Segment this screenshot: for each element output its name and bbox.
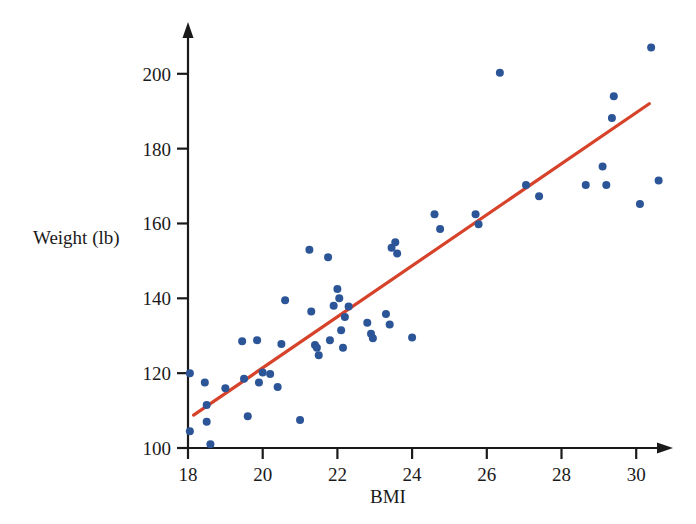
data-point (475, 220, 483, 228)
x-tick-label: 20 (253, 464, 272, 485)
y-axis-arrowhead (183, 22, 194, 38)
data-point (599, 163, 607, 171)
data-point (330, 302, 338, 310)
data-point (345, 303, 353, 311)
data-point (324, 253, 332, 261)
data-point (201, 379, 209, 387)
data-point (382, 310, 390, 318)
y-tick-label: 160 (143, 213, 172, 234)
x-tick-label: 30 (627, 464, 646, 485)
data-point (522, 181, 530, 189)
data-point (335, 294, 343, 302)
data-point (203, 401, 211, 409)
data-point (266, 370, 274, 378)
data-point (305, 246, 313, 254)
data-point (281, 296, 289, 304)
data-point (636, 200, 644, 208)
data-point (436, 225, 444, 233)
data-point (255, 379, 263, 387)
data-point (337, 326, 345, 334)
y-axis-title: Weight (lb) (33, 227, 120, 249)
y-axis-ticks: 100120140160180200 (143, 64, 189, 459)
y-tick-label: 180 (143, 139, 172, 160)
data-point (326, 336, 334, 344)
data-point (535, 192, 543, 200)
x-tick-label: 18 (179, 464, 198, 485)
x-tick-label: 22 (328, 464, 347, 485)
data-point (408, 334, 416, 342)
data-point (240, 375, 248, 383)
data-point (333, 285, 341, 293)
x-tick-label: 28 (552, 464, 571, 485)
data-point (253, 336, 261, 344)
data-point (369, 334, 377, 342)
data-point (274, 383, 282, 391)
regression-line-group (194, 104, 650, 415)
plot-canvas: 100120140160180200 18202224262830 Weight… (0, 0, 696, 524)
data-point (472, 210, 480, 218)
data-point (244, 412, 252, 420)
y-tick-label: 200 (143, 64, 172, 85)
regression-line (194, 104, 650, 415)
data-point (186, 369, 194, 377)
x-axis (188, 443, 673, 454)
y-tick-label: 120 (143, 363, 172, 384)
data-point (259, 368, 267, 376)
x-tick-label: 26 (477, 464, 496, 485)
data-point (496, 69, 504, 77)
data-point (602, 181, 610, 189)
data-point (610, 92, 618, 100)
y-axis (183, 22, 194, 448)
data-point (203, 418, 211, 426)
data-point (391, 238, 399, 246)
data-point (277, 340, 285, 348)
data-point (582, 181, 590, 189)
y-tick-label: 100 (143, 438, 172, 459)
data-point (393, 249, 401, 257)
data-point (315, 351, 323, 359)
data-point (655, 176, 663, 184)
data-point (221, 384, 229, 392)
data-point (238, 337, 246, 345)
data-point (386, 321, 394, 329)
data-point (363, 319, 371, 327)
x-axis-title: BMI (370, 486, 406, 507)
data-point (431, 210, 439, 218)
data-point (206, 440, 214, 448)
data-point (296, 416, 304, 424)
x-axis-arrowhead (657, 443, 673, 454)
data-point (307, 307, 315, 315)
data-point (313, 344, 321, 352)
x-tick-label: 24 (403, 464, 423, 485)
data-point (608, 114, 616, 122)
data-point (647, 44, 655, 52)
data-point (341, 313, 349, 321)
data-point (186, 427, 194, 435)
x-axis-ticks: 18202224262830 (179, 448, 646, 485)
y-tick-label: 140 (143, 288, 172, 309)
scatter-plot-figure: 100120140160180200 18202224262830 Weight… (0, 0, 696, 524)
data-point (339, 344, 347, 352)
data-points-group (186, 44, 663, 449)
